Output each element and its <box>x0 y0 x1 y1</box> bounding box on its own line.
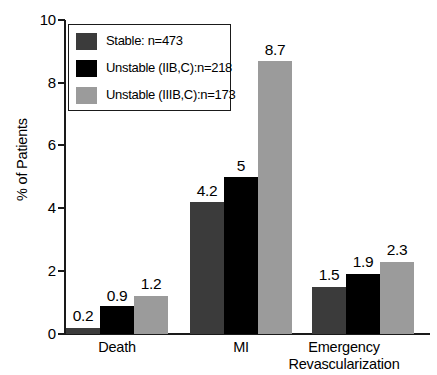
y-tick-mark-8 <box>58 82 65 84</box>
y-tick-label-2: 2 <box>16 263 56 278</box>
y-tick-label-10: 10 <box>16 12 56 27</box>
y-tick-mark-2 <box>58 270 65 272</box>
y-tick-mark-10 <box>58 19 65 21</box>
bar-mi-stable <box>190 202 224 334</box>
legend-label-stable: Stable: n=473 <box>106 34 183 48</box>
stable-swatch-icon <box>76 33 97 50</box>
y-tick-mark-6 <box>58 144 65 146</box>
bar-revasc-unstable-iib <box>346 274 380 334</box>
bar-label-death-unstable-iiib: 1.2 <box>128 276 174 292</box>
y-tick-label-4: 4 <box>16 200 56 215</box>
bar-revasc-unstable-iiib <box>380 262 414 334</box>
bar-revasc-stable <box>312 287 346 334</box>
bar-chart: % of Patients 0 2 4 6 8 10 0.2 0.9 1.2 4… <box>0 0 437 375</box>
bar-label-revasc-unstable-iiib: 2.3 <box>374 242 420 258</box>
bar-label-mi-unstable-iib: 5 <box>218 158 264 174</box>
legend-label-unstable-iiib: Unstable (IIIB,C):n=173 <box>106 88 235 102</box>
bar-label-mi-unstable-iiib: 8.7 <box>252 42 298 58</box>
x-category-label-line-2: Revascularization <box>252 356 436 373</box>
unstable-iiib-swatch-icon <box>76 87 97 104</box>
bar-group-emergency-revascularization: 1.5 1.9 2.3 <box>312 20 414 334</box>
bar-mi-unstable-iiib <box>258 61 292 334</box>
y-tick-label-8: 8 <box>16 75 56 90</box>
legend-item-stable: Stable: n=473 <box>76 31 183 51</box>
x-category-label-line-1: Emergency <box>252 339 436 356</box>
unstable-iib-swatch-icon <box>76 60 97 77</box>
x-category-label-death: Death <box>66 339 168 356</box>
bar-mi-unstable-iib <box>224 177 258 334</box>
bar-label-death-stable: 0.2 <box>60 308 106 324</box>
x-category-label-emergency-revascularization: Emergency Revascularization <box>252 339 436 372</box>
y-tick-label-6: 6 <box>16 137 56 152</box>
bar-label-mi-stable: 4.2 <box>184 183 230 199</box>
legend-label-unstable-iib: Unstable (IIB,C):n=218 <box>106 61 232 75</box>
bar-death-stable <box>66 328 100 334</box>
y-tick-label-0: 0 <box>16 326 56 341</box>
legend: Stable: n=473 Unstable (IIB,C):n=218 Uns… <box>68 24 231 111</box>
y-tick-mark-4 <box>58 207 65 209</box>
legend-item-unstable-iiib: Unstable (IIIB,C):n=173 <box>76 85 235 105</box>
y-tick-mark-0 <box>58 333 65 335</box>
legend-item-unstable-iib: Unstable (IIB,C):n=218 <box>76 58 232 78</box>
